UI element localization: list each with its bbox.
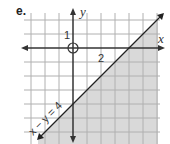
x-tick-label: 2 — [98, 52, 104, 64]
y-axis-label: y — [78, 4, 86, 19]
x-axis-label: x — [157, 31, 164, 46]
coordinate-graph: y x 1 2 x − y = 4 — [0, 0, 170, 144]
y-tick-label: 1 — [64, 29, 70, 41]
